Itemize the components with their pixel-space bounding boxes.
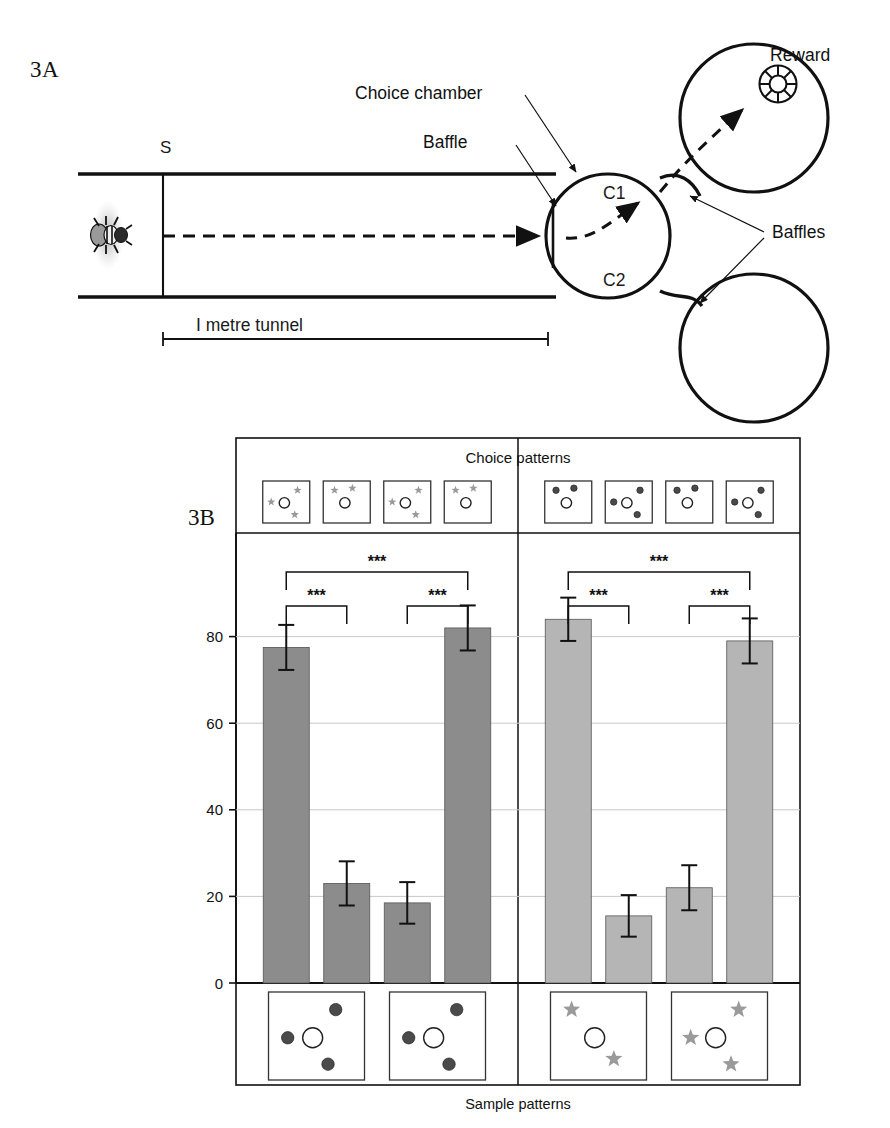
- dot-glyph: [755, 511, 761, 517]
- dot-glyph: [330, 1003, 342, 1015]
- y-tick-label: 60: [206, 715, 223, 732]
- center-circle: [682, 498, 692, 508]
- bar: [445, 628, 491, 983]
- significance-bracket: [286, 606, 347, 624]
- reward-chamber-circle: [680, 44, 828, 192]
- center-circle: [561, 498, 571, 508]
- y-tick-label: 20: [206, 888, 223, 905]
- leader-lines: [516, 95, 764, 303]
- dot-glyph: [758, 487, 764, 493]
- dot-glyph: [403, 1032, 415, 1044]
- dot-glyph: [732, 499, 738, 505]
- center-circle: [622, 498, 632, 508]
- dot-glyph: [322, 1058, 334, 1070]
- y-tick-label: 40: [206, 801, 223, 818]
- significance-label: ***: [368, 553, 387, 570]
- annotation-baffle: Baffle: [423, 132, 467, 153]
- dot-glyph: [611, 499, 617, 505]
- significance-label: ***: [428, 587, 447, 604]
- dot-glyph: [553, 487, 559, 493]
- center-circle: [340, 498, 350, 508]
- dot-glyph: [571, 485, 577, 491]
- dot-glyph: [674, 487, 680, 493]
- reward-path: [660, 110, 742, 192]
- significance-bracket: [407, 606, 468, 624]
- label-c1: C1: [603, 183, 625, 204]
- significance-bracket: [689, 606, 750, 624]
- dot-glyph: [637, 487, 643, 493]
- annotation-baffles: Baffles: [772, 222, 825, 243]
- annotation-choice-chamber: Choice chamber: [355, 83, 482, 104]
- figure-root: 3A: [0, 0, 890, 1128]
- dot-glyph: [443, 1058, 455, 1070]
- center-circle: [585, 1028, 605, 1048]
- label-tunnel-length: I metre tunnel: [196, 315, 303, 336]
- significance-label: ***: [650, 553, 669, 570]
- significance-label: ***: [710, 587, 729, 604]
- alternate-chamber-circle: [680, 274, 828, 422]
- center-circle: [279, 498, 289, 508]
- center-circle: [303, 1028, 323, 1048]
- bee-icon: [91, 200, 133, 270]
- label-start: S: [160, 138, 171, 158]
- panel-3a: 3A: [0, 0, 890, 430]
- x-axis-label: Sample patterns: [465, 1096, 571, 1112]
- annotation-reward: Reward: [770, 45, 830, 66]
- center-circle: [461, 498, 471, 508]
- center-circle: [400, 498, 410, 508]
- apparatus-diagram: [0, 0, 890, 430]
- significance-label: ***: [307, 587, 326, 604]
- dot-glyph: [451, 1003, 463, 1015]
- dot-glyph: [692, 485, 698, 491]
- center-circle: [706, 1028, 726, 1048]
- dot-glyph: [282, 1032, 294, 1044]
- center-circle: [743, 498, 753, 508]
- panel-3b: 3B Choice p[ercentages Choice patternsSa…: [0, 430, 890, 1128]
- bar-chart: Choice patternsSample patterns020406080*…: [0, 430, 890, 1128]
- chamber-path: [566, 203, 638, 238]
- bar: [727, 641, 773, 983]
- y-tick-label: 0: [215, 975, 223, 992]
- y-tick-label: 80: [206, 628, 223, 645]
- bar: [545, 619, 591, 983]
- reward-feeder-icon: [760, 66, 797, 103]
- center-circle: [424, 1028, 444, 1048]
- dot-glyph: [634, 511, 640, 517]
- choice-patterns-title: Choice patterns: [465, 449, 570, 466]
- significance-label: ***: [589, 587, 608, 604]
- bar: [263, 647, 309, 983]
- label-c2: C2: [603, 270, 625, 291]
